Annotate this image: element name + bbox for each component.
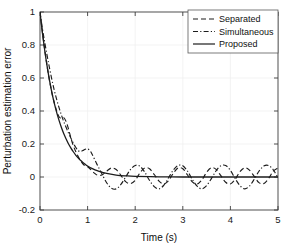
y-tick-label: 0.6	[22, 72, 35, 83]
legend-label-separated: Separated	[219, 14, 261, 24]
legend-label-simultaneous: Simultaneous	[219, 27, 274, 37]
x-tick-label: 0	[37, 214, 42, 225]
y-tick-label: 0	[30, 171, 35, 182]
perturbation-error-chart: -0.200.20.40.60.81 012345 Time (s) Pertu…	[0, 0, 292, 247]
y-axis-title: Perturbation estimation error	[2, 47, 13, 174]
x-tick-label: 3	[180, 214, 185, 225]
x-tick-labels: 012345	[37, 214, 280, 225]
y-tick-label: 0.8	[22, 39, 35, 50]
x-tick-label: 4	[228, 214, 233, 225]
chart-figure: -0.200.20.40.60.81 012345 Time (s) Pertu…	[0, 0, 292, 247]
legend-label-proposed: Proposed	[219, 39, 258, 49]
legend: SeparatedSimultaneousProposed	[188, 10, 278, 53]
y-tick-label: -0.2	[19, 204, 35, 215]
x-tick-label: 2	[133, 214, 138, 225]
y-tick-label: 0.2	[22, 138, 35, 149]
y-tick-label: 0.4	[22, 105, 35, 116]
x-tick-label: 1	[85, 214, 90, 225]
x-tick-label: 5	[275, 214, 280, 225]
y-tick-labels: -0.200.20.40.60.81	[19, 6, 35, 215]
x-axis-title: Time (s)	[141, 232, 177, 243]
y-tick-label: 1	[30, 6, 35, 17]
